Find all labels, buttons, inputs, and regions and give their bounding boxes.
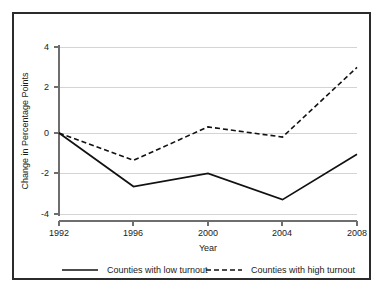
y-tick-label-neg2: -2 <box>41 168 49 178</box>
figure-frame: 4 2 0 -2 -4 Change in Percentage Points … <box>12 12 371 280</box>
line-chart: 4 2 0 -2 -4 Change in Percentage Points … <box>14 14 369 278</box>
x-axis: 1992 1996 2000 2004 2008 Year <box>49 221 367 253</box>
chart-legend: Counties with low turnout Counties with … <box>62 265 356 275</box>
x-tick-label-2000: 2000 <box>198 228 218 238</box>
x-axis-title: Year <box>199 243 217 253</box>
legend-label-low-turnout: Counties with low turnout <box>107 265 208 275</box>
y-tick-label-0: 0 <box>44 128 49 138</box>
y-tick-label-2: 2 <box>44 82 49 92</box>
y-tick-label-neg4: -4 <box>41 209 49 219</box>
legend-label-high-turnout: Counties with high turnout <box>251 265 356 275</box>
y-axis: 4 2 0 -2 -4 Change in Percentage Points <box>20 42 59 219</box>
x-tick-label-2008: 2008 <box>347 228 367 238</box>
y-tick-label-4: 4 <box>44 42 49 52</box>
y-axis-title: Change in Percentage Points <box>20 72 30 190</box>
x-tick-label-1996: 1996 <box>123 228 143 238</box>
x-tick-label-1992: 1992 <box>49 228 69 238</box>
series-high-turnout <box>59 67 357 160</box>
gridlines <box>59 47 357 214</box>
x-tick-label-2004: 2004 <box>272 228 292 238</box>
series-low-turnout <box>59 133 357 200</box>
